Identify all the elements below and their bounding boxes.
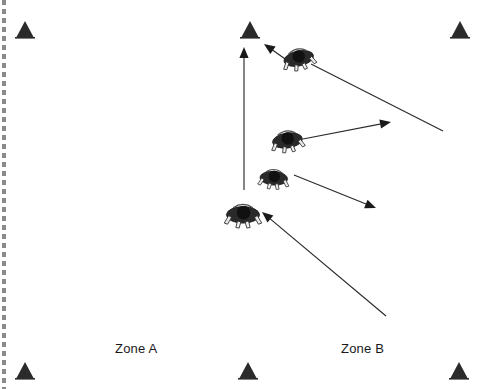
zone-b-label: Zone B (341, 341, 384, 356)
player-top (280, 46, 318, 74)
cone-top-left (15, 21, 35, 39)
diagram-graphics-layer (0, 0, 489, 389)
cone-bottom-left (15, 362, 35, 380)
arrow-long-incoming-bottom-right (262, 212, 386, 316)
arrow-lower-middle-downright (294, 175, 376, 208)
cone-bottom-right (449, 362, 469, 380)
player-bottom (224, 204, 261, 228)
player-middle (269, 129, 306, 155)
arrow-vertical-run (239, 47, 248, 190)
arrow-middle-player-upright (303, 120, 391, 139)
zone-a-label: Zone A (115, 341, 157, 356)
cones-group (15, 21, 470, 380)
player-lower-middle (257, 168, 290, 190)
cone-bottom-center (238, 362, 258, 380)
cone-top-center (240, 21, 260, 39)
players-group (224, 46, 318, 228)
drill-diagram-canvas: Zone A Zone B (0, 0, 489, 389)
cone-top-right (450, 21, 470, 39)
arrow-incoming-top-right (311, 64, 443, 131)
